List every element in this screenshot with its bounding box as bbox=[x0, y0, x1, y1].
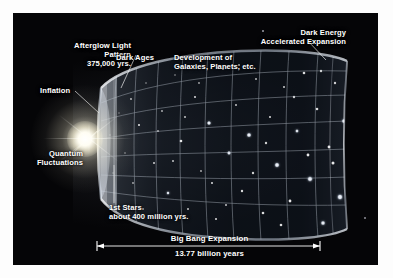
label-quantum-fluctuations: Quantum Fluctuations bbox=[13, 149, 83, 167]
diagram-plate: Afterglow Light Pattern 375,000 yrs. Dar… bbox=[13, 13, 378, 265]
label-inflation: Inflation bbox=[40, 86, 70, 95]
universe-timeline-figure: Afterglow Light Pattern 375,000 yrs. Dar… bbox=[0, 0, 393, 278]
label-dark-energy: Dark Energy Accelerated Expansion bbox=[213, 28, 346, 46]
label-dark-ages: Dark Ages bbox=[116, 53, 154, 62]
label-first-stars: 1st Stars about 400 million yrs. bbox=[109, 203, 188, 221]
label-development-of-galaxies: Development of Galaxies, Planets, etc. bbox=[174, 53, 256, 71]
leader-inflation bbox=[75, 91, 99, 113]
